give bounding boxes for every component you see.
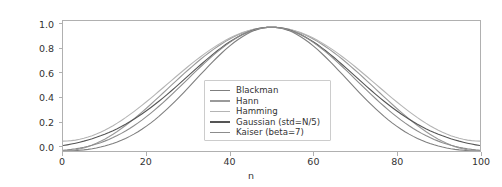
ytick-label-1: 0.2 — [20, 118, 54, 128]
xtick-label-5: 100 — [461, 157, 501, 167]
window-functions-chart: 0.0 0.2 0.4 0.6 0.8 1.0 0 20 40 60 80 10… — [0, 0, 502, 187]
ytick-label-3: 0.6 — [20, 69, 54, 79]
ytick-label-4: 0.8 — [20, 44, 54, 54]
xtick-label-4: 80 — [377, 157, 417, 167]
legend-item-kaiser: Kaiser (beta=7) — [210, 127, 325, 138]
legend-item-hamming: Hamming — [210, 106, 325, 117]
x-axis-label: n — [0, 170, 502, 181]
legend: Blackman Hann Hamming Gaussian (std=N/5)… — [204, 80, 331, 141]
legend-label-kaiser: Kaiser (beta=7) — [236, 128, 304, 137]
xtick-mark-3 — [313, 152, 314, 156]
ytick-label-2: 0.4 — [20, 93, 54, 103]
xtick-label-3: 60 — [293, 157, 333, 167]
legend-line-icon-kaiser — [210, 132, 230, 134]
xtick-mark-0 — [62, 152, 63, 156]
legend-label-hann: Hann — [236, 97, 259, 106]
legend-line-icon-hamming — [210, 111, 230, 113]
xtick-label-0: 0 — [42, 157, 82, 167]
xtick-mark-5 — [481, 152, 482, 156]
legend-line-icon-gaussian — [210, 121, 230, 123]
xtick-mark-2 — [230, 152, 231, 156]
legend-label-gaussian: Gaussian (std=N/5) — [236, 118, 320, 127]
xtick-mark-4 — [397, 152, 398, 156]
legend-item-gaussian: Gaussian (std=N/5) — [210, 117, 325, 128]
legend-line-icon-hann — [210, 100, 230, 102]
legend-item-blackman: Blackman — [210, 85, 325, 96]
legend-item-hann: Hann — [210, 96, 325, 107]
legend-label-blackman: Blackman — [236, 86, 278, 95]
ytick-label-5: 1.0 — [20, 20, 54, 30]
xtick-label-2: 40 — [210, 157, 250, 167]
ytick-label-0: 0.0 — [20, 143, 54, 153]
legend-line-icon-blackman — [210, 90, 230, 92]
xtick-mark-1 — [146, 152, 147, 156]
legend-label-hamming: Hamming — [236, 107, 278, 116]
xtick-label-1: 20 — [126, 157, 166, 167]
